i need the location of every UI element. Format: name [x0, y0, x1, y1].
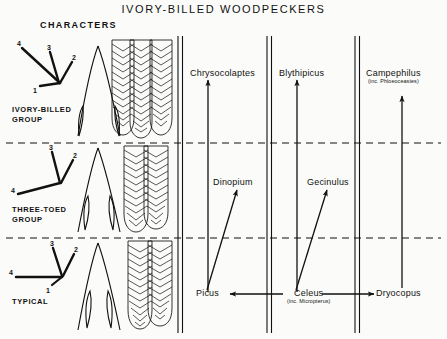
arrow-picus-to-dinopium [207, 190, 237, 290]
toe-label-3: 3 [49, 144, 53, 151]
skull-outline-typical [78, 243, 120, 330]
skull-outline-three-toed [78, 148, 120, 232]
toe-label-3: 3 [47, 44, 51, 51]
column-divider-2 [267, 36, 272, 333]
toe-label-4: 4 [17, 40, 21, 47]
toe-arrangement-three-toed: 3 2 4 [11, 144, 77, 194]
tail-feathers-ivory-billed [112, 40, 172, 138]
woodpecker-phylogeny-figure: IVORY-BILLED WOODPECKERS CHARACTERS IVOR… [0, 0, 447, 339]
arrow-celeus-to-gecinulus [296, 190, 327, 290]
tail-feathers-typical [128, 241, 172, 329]
toe-label-3: 3 [50, 240, 54, 247]
column-divider-1 [178, 36, 183, 333]
tail-feathers-three-toed [124, 146, 168, 232]
figure-linework: 4 3 2 1 [0, 0, 447, 339]
toe-label-2: 2 [73, 152, 77, 159]
toe-label-1: 1 [33, 87, 37, 94]
toe-label-1: 1 [46, 287, 50, 294]
toe-label-2: 2 [72, 54, 76, 61]
toe-label-4: 4 [9, 269, 13, 276]
column-divider-3 [355, 36, 360, 333]
toe-arrangement-ivory-billed: 4 3 2 1 [17, 40, 76, 94]
skull-outline-ivory-billed [78, 46, 120, 136]
toe-label-2: 2 [74, 246, 78, 253]
toe-arrangement-typical: 3 2 4 1 [9, 240, 78, 294]
toe-label-4: 4 [11, 187, 15, 194]
